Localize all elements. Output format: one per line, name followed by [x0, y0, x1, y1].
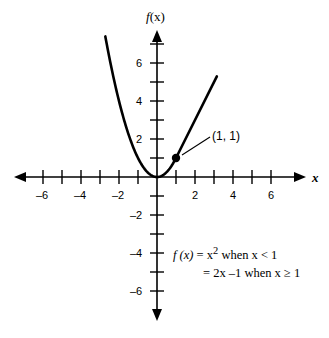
coordinate-plane — [0, 0, 329, 338]
equation-line2-text: = 2x –1 when x ≥ 1 — [203, 266, 300, 280]
x-axis-arrow-left-icon — [14, 172, 26, 182]
annotation-point-label: (1, 1) — [212, 130, 240, 142]
equation-line-1: f (x) = x2 when x < 1 — [173, 243, 300, 264]
x-tick-label--2: –2 — [112, 190, 124, 201]
y-tick-label-2: 2 — [136, 134, 142, 145]
equation-fx: f (x) — [173, 248, 193, 262]
y-axis-label: f(x) — [146, 10, 165, 23]
y-tick-label--2: –2 — [130, 210, 142, 221]
y-tick-label-4: 4 — [136, 96, 142, 107]
y-axis-arrow-down-icon — [152, 309, 162, 321]
y-tick-label--6: –6 — [130, 286, 142, 297]
equation-line1-rest: = x — [193, 248, 213, 262]
x-tick-label-4: 4 — [230, 190, 236, 201]
x-tick-label-2: 2 — [192, 190, 198, 201]
y-tick-label--4: –4 — [130, 248, 142, 259]
equation-line-2: = 2x –1 when x ≥ 1 — [173, 264, 300, 282]
x-tick-label--4: –4 — [74, 190, 86, 201]
x-tick-label-6: 6 — [268, 190, 274, 201]
y-axis-arrow-up-icon — [152, 30, 162, 42]
equation-line1-tail: when x < 1 — [218, 248, 277, 262]
graph-figure: f(x) x –6 –4 –2 2 4 6 6 4 2 –2 –4 –6 (1,… — [0, 0, 329, 338]
x-axis-label: x — [312, 171, 319, 184]
x-axis-arrow-right-icon — [294, 172, 306, 182]
x-tick-label--6: –6 — [36, 190, 48, 201]
y-axis-label-arg: (x) — [150, 9, 165, 24]
piecewise-equation: f (x) = x2 when x < 1 = 2x –1 when x ≥ 1 — [173, 243, 300, 282]
point-marker-1-1 — [172, 154, 180, 162]
y-tick-label-6: 6 — [136, 58, 142, 69]
